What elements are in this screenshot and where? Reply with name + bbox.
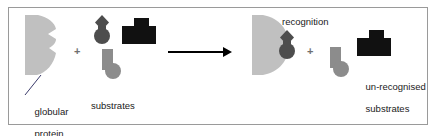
- reaction-arrow: [168, 46, 232, 58]
- ell-foot-substrate-right: [329, 47, 351, 77]
- protein-label-line2: protein: [35, 128, 64, 136]
- protein-leader-line: [24, 74, 48, 96]
- diamond-knob-substrate-bound: [276, 30, 298, 60]
- unrecognised-label-line1: un-recognised: [366, 81, 426, 92]
- globular-protein-label: globular protein: [24, 95, 68, 136]
- diamond-knob-substrate-left: [91, 15, 113, 45]
- unrecognised-substrates-label: un-recognised substrates: [355, 70, 426, 125]
- diagram-canvas: globular protein + substrates recognitio…: [0, 0, 438, 136]
- globular-protein-left: [24, 14, 60, 76]
- ell-foot-substrate-left: [101, 49, 123, 79]
- block-dome-substrate-left: [122, 16, 156, 44]
- plus-sign-right: +: [307, 46, 313, 57]
- protein-label-line1: globular: [35, 106, 69, 117]
- unrecognised-label-line2: substrates: [366, 103, 410, 114]
- plus-sign-left: +: [74, 46, 80, 57]
- block-dome-substrate-right: [357, 28, 391, 56]
- substrates-label: substrates: [91, 100, 135, 111]
- recognition-label: recognition: [282, 16, 328, 27]
